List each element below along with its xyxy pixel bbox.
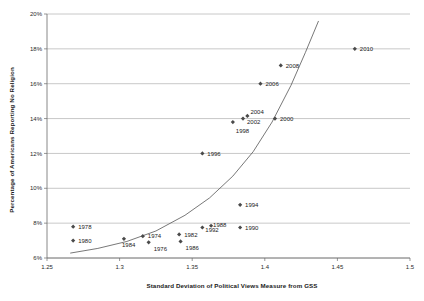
data-point-marker [241,116,245,120]
plot-area: 6%8%10%12%14%16%18%20% 1.251.31.351.41.4… [0,0,424,301]
data-point-marker [353,47,357,51]
data-point-marker [238,203,242,207]
data-point-label: 2006 [265,81,279,87]
x-axis-title: Standard Deviation of Political Views Me… [146,282,317,289]
data-point-marker [258,82,262,86]
x-tick-label: 1.3 [115,264,124,270]
data-points: 1978198019841974197619821986199219881990… [71,46,374,252]
y-tick-label: 20% [30,11,43,17]
data-point-label: 1986 [186,245,200,251]
gridlines [47,14,410,258]
data-point-marker [279,63,283,67]
trend-line [70,21,318,253]
data-point-marker [122,237,126,241]
y-tick-label: 8% [33,220,42,226]
data-point-marker [177,232,181,236]
data-point-marker [200,151,204,155]
y-axis-title: Percentage of Americans Reporting No Rel… [8,67,15,213]
axis-lines [47,14,410,258]
x-tick-label: 1.25 [41,264,53,270]
data-point-label: 1996 [207,151,221,157]
x-tick-label: 1.45 [332,264,344,270]
scatter-chart: 6%8%10%12%14%16%18%20% 1.251.31.351.41.4… [0,0,424,301]
data-point-label: 2000 [280,116,294,122]
data-point-label: 1990 [245,225,259,231]
y-tick-label: 14% [30,116,43,122]
data-point-label: 2002 [247,119,261,125]
data-point-marker [147,240,151,244]
data-point-marker [178,239,182,243]
data-point-label: 1992 [205,227,219,233]
y-tick-label: 6% [33,255,42,261]
data-point-label: 1988 [213,222,227,228]
data-point-label: 1998 [236,128,250,134]
y-tick-label: 12% [30,151,43,157]
data-point-label: 1974 [148,233,162,239]
x-tick-label: 1.35 [186,264,198,270]
data-point-marker [200,225,204,229]
x-tick-label: 1.5 [406,264,415,270]
data-point-label: 1976 [154,246,168,252]
y-tick-label: 16% [30,81,43,87]
data-point-label: 1978 [78,224,92,230]
data-point-label: 1994 [245,202,259,208]
y-tick-label: 18% [30,46,43,52]
x-axis-ticks: 1.251.31.351.41.451.5 [41,258,415,270]
data-point-label: 1982 [184,232,198,238]
trend-curve [70,21,318,253]
data-point-marker [71,238,75,242]
x-tick-label: 1.4 [261,264,270,270]
data-point-label: 2008 [286,63,300,69]
data-point-label: 1984 [122,242,136,248]
data-point-label: 2004 [250,109,264,115]
data-point-label: 1980 [78,238,92,244]
data-point-label: 2010 [360,46,374,52]
data-point-marker [71,225,75,229]
y-axis-ticks: 6%8%10%12%14%16%18%20% [30,11,47,261]
y-tick-label: 10% [30,185,43,191]
data-point-marker [231,120,235,124]
data-point-marker [245,114,249,118]
data-point-marker [238,225,242,229]
